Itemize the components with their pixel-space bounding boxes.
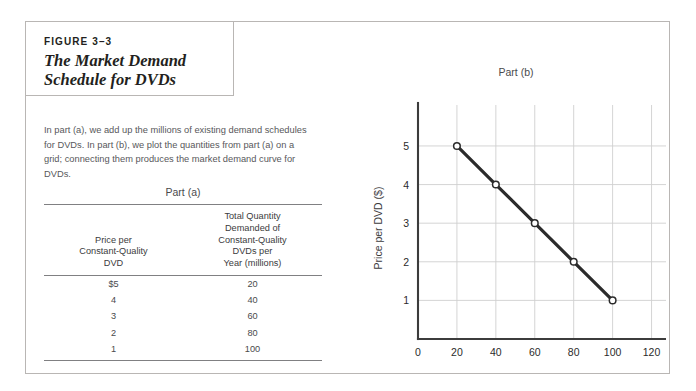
y-tick-label: 5 [403,140,409,152]
cell-price: 4 [44,292,183,308]
cell-quantity: 40 [183,292,322,308]
table-row: 1 100 [44,341,322,360]
part-a-title: Part (a) [44,186,322,198]
y-tick-label: 3 [403,217,409,229]
data-point-marker [493,181,500,188]
header-line: DVD [104,258,123,268]
x-tick-label: 20 [451,346,463,358]
figure-number-label: FIGURE 3–3 [44,36,217,47]
x-tick-label: 60 [529,346,541,358]
demand-schedule-table: Price per Constant-Quality DVD Total Qua… [44,204,322,360]
cell-price: 3 [44,308,183,324]
cell-quantity: 20 [183,275,322,292]
table-body: $5 20 4 40 3 60 2 80 1 100 [44,275,322,359]
column-header-price: Price per Constant-Quality DVD [44,205,183,276]
data-point-marker [454,143,461,150]
header-line: DVDs per [233,246,273,256]
cell-quantity: 60 [183,308,322,324]
y-tick-label: 4 [403,179,409,191]
x-tick-label: 40 [490,346,502,358]
part-b-section: Part (b) 12345020406080100120Price per D… [366,50,666,370]
table-row: 3 60 [44,308,322,324]
figure-caption: In part (a), we add up the millions of e… [44,123,310,181]
data-point-marker [609,297,616,304]
table-row: 4 40 [44,292,322,308]
y-axis-title: Price per DVD ($) [372,187,384,270]
figure-title-box: FIGURE 3–3 The Market Demand Schedule fo… [26,22,234,96]
column-header-quantity: Total Quantity Demanded of Constant-Qual… [183,205,322,276]
header-line: Total Quantity [224,211,280,221]
table-head: Price per Constant-Quality DVD Total Qua… [44,205,322,276]
header-line: Constant-Quality [218,235,286,245]
cell-price: 2 [44,325,183,341]
cell-quantity: 100 [183,341,322,360]
cell-price: $5 [44,275,183,292]
part-a-section: Part (a) Price per Constant-Quality DVD … [44,186,322,361]
figure-title: The Market Demand Schedule for DVDs [44,51,217,89]
data-point-marker [531,220,538,227]
header-line: Constant-Quality [79,246,147,256]
data-point-marker [570,258,577,265]
table-bottom-rule [44,360,322,361]
cell-quantity: 80 [183,325,322,341]
figure-container: FIGURE 3–3 The Market Demand Schedule fo… [25,21,670,374]
table-row: $5 20 [44,275,322,292]
header-line: Price per [95,235,132,245]
x-tick-label: 100 [604,346,622,358]
cell-price: 1 [44,341,183,360]
table-row: 2 80 [44,325,322,341]
x-tick-label: 80 [568,346,580,358]
demand-curve-chart: 12345020406080100120Price per DVD ($)Qua… [366,50,666,370]
x-tick-label: 120 [643,346,661,358]
header-line: Year (millions) [224,258,282,268]
y-tick-label: 2 [403,256,409,268]
y-tick-label: 1 [403,294,409,306]
header-line: Demanded of [225,223,280,233]
x-tick-label: 0 [415,346,421,358]
